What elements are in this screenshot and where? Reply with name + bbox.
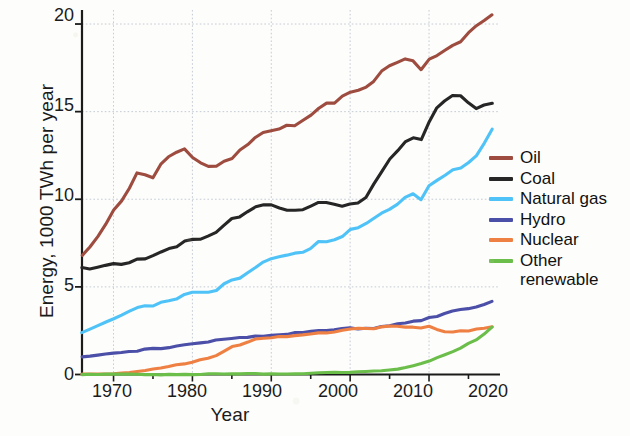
y-tick-label-5: 5 bbox=[32, 275, 74, 296]
y-tick-label-10: 10 bbox=[32, 185, 74, 206]
y-tick-label-0: 0 bbox=[32, 364, 74, 385]
legend-item-natural-gas: Natural gas bbox=[489, 189, 607, 210]
x-tick-label-1990: 1990 bbox=[232, 381, 292, 402]
legend-item-hydro: Hydro bbox=[489, 210, 607, 231]
x-tick-label-1970: 1970 bbox=[82, 381, 142, 402]
legend-color-swatch bbox=[489, 238, 513, 242]
legend-color-swatch bbox=[489, 218, 513, 222]
legend-item-label: Natural gas bbox=[520, 189, 607, 209]
x-axis-title: Year bbox=[0, 404, 460, 426]
legend-item-label: Hydro bbox=[520, 210, 565, 230]
legend-item-coal: Coal bbox=[489, 169, 607, 190]
legend-item-label: Nuclear bbox=[520, 230, 579, 250]
y-tick-label-15: 15 bbox=[32, 95, 74, 116]
x-tick-label-2000: 2000 bbox=[308, 381, 368, 402]
x-tick-label-2020: 2020 bbox=[458, 381, 518, 402]
series-line-coal bbox=[82, 96, 492, 269]
legend-item-other-renewable: Other renewable bbox=[489, 251, 607, 292]
y-tick-label-20: 20 bbox=[32, 5, 74, 26]
series-line-natural-gas bbox=[82, 129, 492, 332]
x-tick-label-2010: 2010 bbox=[383, 381, 443, 402]
legend-color-swatch bbox=[489, 177, 513, 181]
legend-item-label: Other renewable bbox=[520, 251, 598, 289]
data-series-group bbox=[82, 15, 493, 375]
legend-item-label: Coal bbox=[520, 169, 555, 189]
series-line-hydro bbox=[82, 301, 492, 357]
legend-item-label: Oil bbox=[520, 148, 541, 168]
legend-color-swatch bbox=[489, 197, 513, 201]
legend-color-swatch bbox=[489, 156, 513, 160]
x-tick-label-1980: 1980 bbox=[157, 381, 217, 402]
series-line-oil bbox=[82, 15, 492, 256]
legend-item-oil: Oil bbox=[489, 148, 607, 169]
energy-consumption-line-chart: Energy, 1000 TWh per year Year 20 15 10 … bbox=[0, 0, 630, 436]
gridlines bbox=[82, 10, 500, 375]
chart-legend: OilCoalNatural gasHydroNuclearOther rene… bbox=[489, 148, 607, 292]
legend-color-swatch bbox=[489, 259, 513, 263]
legend-item-nuclear: Nuclear bbox=[489, 230, 607, 251]
